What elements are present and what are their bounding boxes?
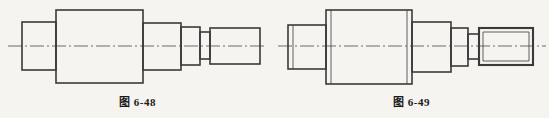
figure-6-49-caption-label: 图 — [393, 96, 405, 108]
technical-drawing-page: 图 6-48 图 — [0, 0, 549, 118]
figure-6-49-drawing — [274, 0, 549, 92]
figure-6-48-drawing — [0, 0, 275, 92]
figure-6-48-caption-number: 6-48 — [134, 96, 156, 108]
figure-6-48: 图 6-48 — [0, 0, 275, 118]
step-1-left-cylinder — [288, 25, 326, 69]
figure-6-49: 图 6-49 — [274, 0, 549, 118]
step-3-medium-cylinder — [412, 22, 451, 72]
figure-6-49-caption-number: 6-49 — [408, 96, 430, 108]
figure-6-48-caption-label: 图 — [119, 96, 131, 108]
step-4-small-cylinder — [451, 28, 468, 66]
figure-6-48-caption: 图 6-48 — [0, 93, 275, 109]
step-2-main-block — [326, 10, 412, 84]
figure-6-49-caption: 图 6-49 — [274, 93, 549, 109]
